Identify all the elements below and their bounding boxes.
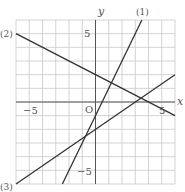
line-3-label: (3) bbox=[0, 182, 13, 192]
tick-label-y-neg5: −5 bbox=[77, 166, 92, 177]
tick-label-x-neg5: −5 bbox=[23, 105, 38, 116]
line-1-label: (1) bbox=[136, 7, 149, 17]
x-axis-label: x bbox=[177, 95, 184, 108]
coordinate-graph: y x O −5 5 5 −5 (1) (2) (3) bbox=[0, 0, 185, 192]
line-2-label: (2) bbox=[0, 29, 13, 39]
tick-label-y-5: 5 bbox=[84, 28, 90, 39]
y-axis-label: y bbox=[97, 5, 105, 18]
origin-label: O bbox=[85, 104, 93, 115]
axes bbox=[16, 20, 175, 184]
tick-label-x-5: 5 bbox=[159, 105, 165, 116]
